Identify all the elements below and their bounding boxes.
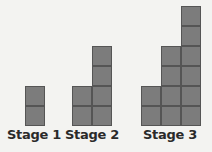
square [161,86,181,106]
square [161,46,181,66]
square [92,86,112,106]
square [92,46,112,66]
pattern-diagram: Stage 1 Stage 2 Stage 3 [0,0,212,152]
square [181,26,201,46]
stage-3-label: Stage 3 [143,127,197,142]
square [181,66,201,86]
stage-2-label: Stage 2 [65,127,119,142]
square [181,86,201,106]
stage-1-label: Stage 1 [7,127,61,142]
square [161,66,181,86]
square [25,86,45,106]
square [161,106,181,126]
square [92,66,112,86]
square [181,46,201,66]
square [92,106,112,126]
square [72,86,92,106]
square [72,106,92,126]
square [181,106,201,126]
square [141,86,161,106]
square [141,106,161,126]
square [181,6,201,26]
square [25,106,45,126]
